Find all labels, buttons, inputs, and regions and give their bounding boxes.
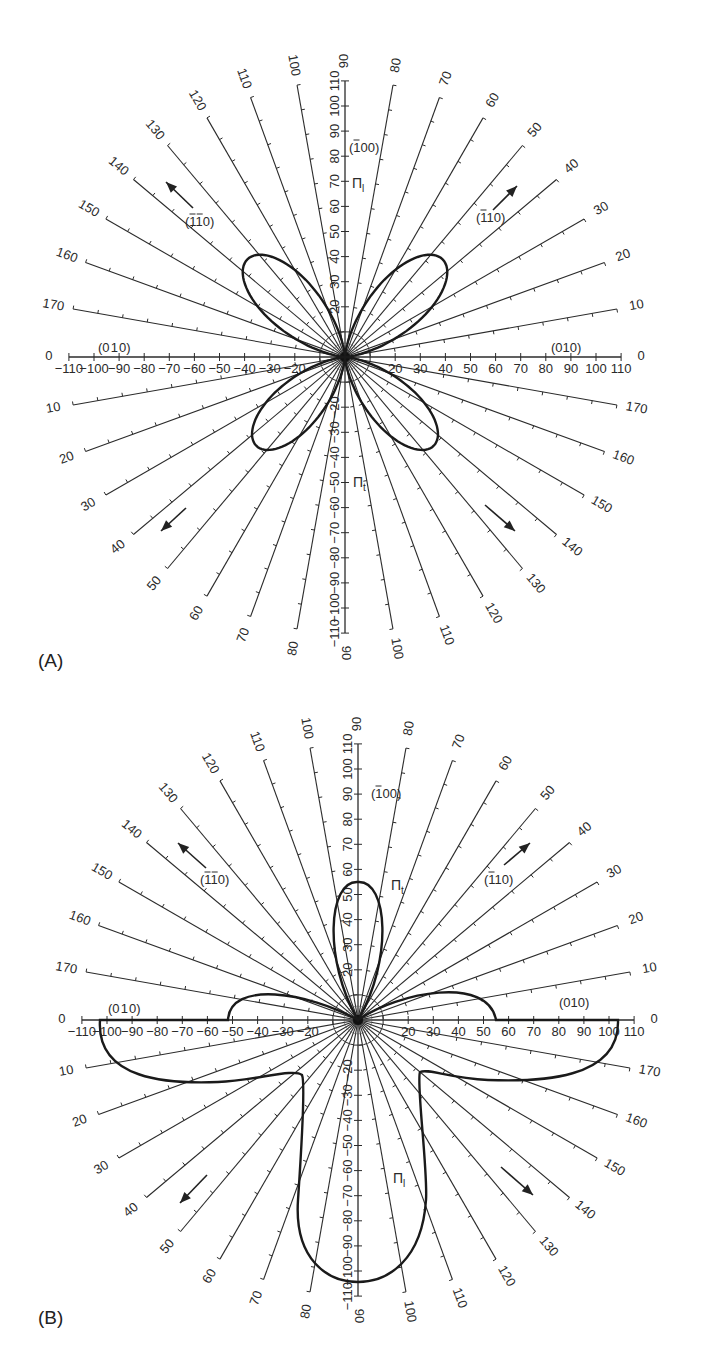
radial-tick-label: −30 [272,1024,294,1039]
radial-tick-label: −40 [234,361,256,376]
angle-tick-label: 50 [156,1236,177,1257]
radial-tick-label: 90 [340,787,355,801]
radial-tick-label: −90 [340,1235,355,1257]
angle-tick-label: 20 [614,245,633,264]
radial-tick-label: −30 [259,361,281,376]
angle-tick-label: 30 [604,861,624,881]
radial-tick-label: 90 [327,124,342,138]
angle-tick-label: 160 [67,907,93,929]
angle-tick-label: 170 [625,398,649,417]
direction-label-0-1bar-0: (0 1 0) [108,1001,141,1016]
svg-text:t: t [363,482,366,493]
radial-tick-label: −80 [327,547,342,569]
angle-tick-label: 110 [437,623,458,648]
angle-tick-label: 120 [482,600,506,626]
angle-tick-label: 160 [611,447,637,469]
angle-tick-label: 0 [637,348,644,363]
radial-tick-label: −50 [221,1024,243,1039]
angle-tick-label: 160 [624,1110,650,1132]
angle-tick-label: 20 [57,448,76,467]
panel-a-chart: 0010102020303040405050606070708080909010… [42,53,649,660]
radial-tick-label: 40 [438,361,452,376]
angle-tick-label: 150 [89,859,115,883]
angle-tick-label: 70 [233,626,252,645]
direction-label-1bar-00: (100) [349,140,379,155]
radial-tick-label: 80 [552,1024,566,1039]
radial-tick-label: 50 [463,361,477,376]
radial-tick-label: 40 [327,249,342,263]
radial-tick-label: 70 [327,174,342,188]
angle-tick-label: 10 [628,296,645,313]
direction-label-1bar-00: (100) [371,786,401,801]
pi-t-label: Π [353,474,363,490]
svg-text:l: l [403,1178,405,1189]
angle-tick-label: 50 [537,782,558,803]
radial-tick-label: −70 [340,1185,355,1207]
radial-tick-label: −70 [171,1024,193,1039]
angle-tick-label: 140 [572,1197,598,1222]
angle-tick-label: 50 [524,119,545,140]
radial-tick-label: 20 [340,963,355,977]
angle-tick-label: 130 [523,570,548,596]
angle-tick-label: 30 [78,494,98,514]
angle-tick-label: 10 [58,1062,75,1079]
radial-tick-label: −50 [340,1134,355,1156]
angle-tick-label: 100 [388,636,407,660]
angle-tick-label: 170 [638,1061,662,1080]
polar-chart-canvas: 0010102020303040405050606070708080909010… [0,0,701,1365]
radial-tick-label: −50 [327,471,342,493]
radial-tick-label: −20 [340,1059,355,1081]
radial-tick-label: −100 [79,361,108,376]
angle-tick-label: 100 [401,1299,420,1323]
radial-tick-label: −60 [340,1160,355,1182]
direction-label-1bar-10: (110) [484,872,513,887]
angle-tick-label: 150 [76,196,102,220]
radial-tick-label: −110 [55,361,83,376]
radial-tick-label: −40 [327,446,342,468]
radial-tick-label: −90 [121,1024,143,1039]
pi-l-label: Π [393,1170,403,1186]
angle-tick-label: 0 [650,1011,657,1026]
angle-tick-label: 160 [54,244,80,266]
radial-tick-label: −90 [327,572,342,594]
radial-tick-label: −60 [183,361,205,376]
radial-tick-label: −70 [158,361,180,376]
angle-tick-label: 100 [285,53,304,77]
radial-tick-label: 90 [564,361,578,376]
radial-tick-label: 30 [413,361,427,376]
svg-text:t: t [401,885,404,896]
radial-tick-label: 40 [451,1024,465,1039]
angle-tick-label: 150 [602,1155,628,1179]
radial-tick-label: 90 [577,1024,591,1039]
panel-b-chart: 0010102020303040405050606070708080909010… [55,716,662,1323]
angle-tick-label: 80 [297,1303,314,1320]
angle-tick-label: 70 [449,732,468,751]
radial-tick-label: 70 [513,361,527,376]
radial-tick-label: 80 [327,149,342,163]
radial-tick-label: −60 [327,497,342,519]
radial-tick-label: 60 [488,361,502,376]
radial-tick-label: 30 [340,937,355,951]
radial-tick-label: 40 [340,912,355,926]
direction-label-0-1bar-0: (0 1 0) [98,340,131,355]
angle-tick-label: 130 [536,1233,561,1259]
angle-tick-label: 130 [156,779,181,805]
angle-tick-label: 100 [298,716,317,740]
panel-a-label: (A) [38,650,63,672]
angle-tick-label: 80 [387,57,404,74]
radial-tick-label: 20 [401,1024,415,1039]
radial-tick-label: −80 [146,1024,168,1039]
radial-tick-label: −90 [108,361,130,376]
angle-tick-label: 110 [247,729,268,754]
angle-tick-label: 50 [143,573,164,594]
radial-tick-label: 50 [327,224,342,238]
radial-tick-label: 110 [340,734,355,755]
angle-tick-label: 150 [589,492,615,516]
angle-tick-label: 120 [495,1263,519,1289]
radial-tick-label: −100 [327,593,342,622]
direction-label-1bar-1bar-0: (110) [200,872,229,887]
radial-tick-label: −20 [297,1024,319,1039]
radial-tick-label: −80 [340,1210,355,1232]
radial-tick-label: 80 [539,361,553,376]
angle-tick-label: 40 [107,536,128,557]
